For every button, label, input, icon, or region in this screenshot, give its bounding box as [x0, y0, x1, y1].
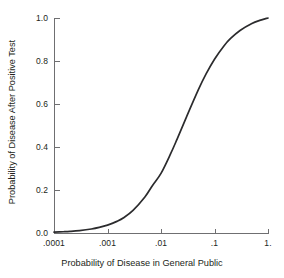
y-axis-title: Probability of Disease After Positive Te…: [4, 0, 20, 246]
y-tick-label: 0.4: [20, 142, 48, 152]
x-tick-label: .001: [99, 238, 116, 248]
x-tick-label: .0001: [43, 238, 65, 248]
axis-lines: [54, 18, 268, 234]
y-tick-label: 0.0: [20, 228, 48, 238]
y-tick-marks: [55, 19, 60, 234]
y-tick-label: 0.8: [20, 56, 48, 66]
x-tick-label: 1.: [264, 238, 271, 248]
y-tick-label: 1.0: [20, 13, 48, 23]
x-tick-label: .1: [211, 238, 218, 248]
chart-figure: .0001.001.01.11. 1.00.80.60.40.20.0 Prob…: [0, 0, 284, 278]
x-axis-title: Probability of Disease in General Public: [0, 258, 284, 268]
data-curve: [54, 18, 268, 232]
y-tick-label: 0.2: [20, 185, 48, 195]
x-tick-label: .01: [155, 238, 167, 248]
y-tick-label: 0.6: [20, 99, 48, 109]
